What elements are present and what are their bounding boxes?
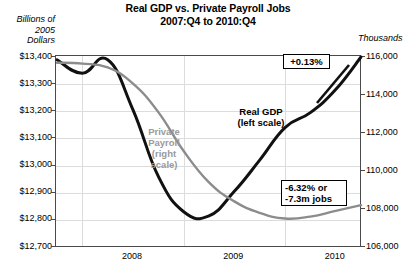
chart-title-line-1: Real GDP vs. Private Payroll Jobs [88, 2, 328, 15]
right-axis-tick-label: 116,000 [366, 52, 416, 61]
payroll-callout-line-1: -6.32% or [285, 182, 343, 193]
payroll-series-label-line-1: Private [138, 126, 190, 137]
gdp-callout-box: +0.13% [283, 54, 330, 69]
plot-area [55, 55, 361, 247]
payroll-series-label: Private Payroll (right scale) [138, 126, 190, 170]
left-axis-unit-line-3: Dollars [2, 35, 55, 46]
payroll-series-label-line-3: (right [138, 148, 190, 159]
right-axis-tick-label: 106,000 [366, 242, 416, 251]
x-axis-tick-label: 2009 [203, 251, 263, 261]
left-axis-tick-label: $12,700 [0, 242, 52, 251]
left-axis-unit-label: Billions of 2005 Dollars [2, 14, 55, 46]
chart-container: Real GDP vs. Private Payroll Jobs 2007:Q… [0, 0, 416, 279]
series-lines [56, 56, 362, 248]
left-axis-tick-label: $12,900 [0, 187, 52, 196]
payroll-callout-box: -6.32% or -7.3m jobs [281, 180, 347, 206]
gdp-series-label-line-2: (left scale) [218, 117, 304, 128]
payroll-series-label-line-4: scale) [138, 159, 190, 170]
gdp-series-label-line-1: Real GDP [218, 106, 304, 117]
chart-title-line-2: 2007:Q4 to 2010:Q4 [88, 15, 328, 28]
left-axis-tick-label: $13,000 [0, 160, 52, 169]
gdp-callout-leader [317, 65, 349, 103]
right-axis-tick-label: 112,000 [366, 128, 416, 137]
right-axis-unit-label: Thousands [358, 33, 416, 44]
payroll-callout-line-2: -7.3m jobs [285, 193, 343, 204]
left-axis-tick-label: $13,400 [0, 52, 52, 61]
left-axis-tick-label: $12,800 [0, 214, 52, 223]
x-axis-tick-label: 2010 [305, 251, 365, 261]
left-axis-tick-label: $13,100 [0, 133, 52, 142]
right-axis-tick-label: 110,000 [366, 166, 416, 175]
right-axis-tick-label: 108,000 [366, 204, 416, 213]
left-axis-tick-label: $13,300 [0, 79, 52, 88]
right-axis-tick-label: 114,000 [366, 90, 416, 99]
left-axis-unit-line-2: 2005 [2, 25, 55, 36]
x-axis-tick-label: 2008 [102, 251, 162, 261]
chart-title: Real GDP vs. Private Payroll Jobs 2007:Q… [88, 2, 328, 27]
payroll-series-label-line-2: Payroll [138, 137, 190, 148]
left-axis-unit-line-1: Billions of [2, 14, 55, 25]
left-axis-tick-label: $13,200 [0, 106, 52, 115]
gdp-series-label: Real GDP (left scale) [218, 106, 304, 128]
